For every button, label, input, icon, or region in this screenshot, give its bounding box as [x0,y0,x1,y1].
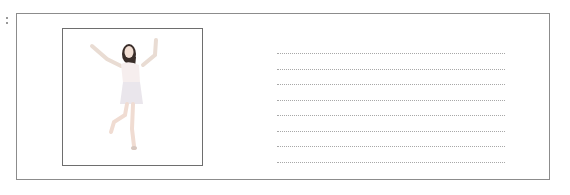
writing-line[interactable] [277,131,505,132]
dancing-woman-image [63,29,202,165]
writing-line[interactable] [277,69,505,70]
margin-mark [6,16,9,25]
writing-line[interactable] [277,162,505,163]
writing-line[interactable] [277,146,505,147]
writing-lines [277,53,505,177]
writing-line[interactable] [277,100,505,101]
writing-line[interactable] [277,84,505,85]
writing-line[interactable] [277,115,505,116]
writing-line[interactable] [277,53,505,54]
photo-frame [62,28,203,166]
